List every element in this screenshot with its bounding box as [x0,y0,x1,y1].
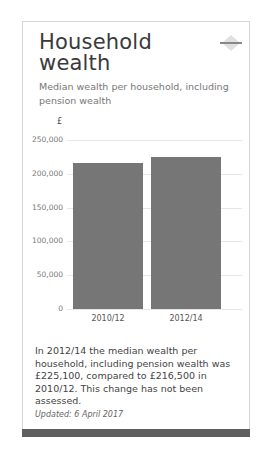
bar-2010-12[interactable] [73,163,143,309]
card-footer-bar [22,429,250,437]
gridline [67,140,242,141]
y-tick-label: 200,000 [23,169,63,178]
y-tick-label: 0 [23,304,63,313]
y-tick-label: 100,000 [23,236,63,245]
updated-date: Updated: 6 April 2017 [35,410,123,419]
y-axis-unit: £ [57,117,62,126]
y-tick-label: 50,000 [23,270,63,279]
y-tick-label: 150,000 [23,203,63,212]
household-wealth-card: Household wealth Median wealth per house… [22,21,250,430]
x-tick-label: 2010/12 [73,314,143,323]
bar-chart: £ 050,000100,000150,000200,000250,000201… [23,22,249,322]
gridline [67,309,242,310]
card-description: In 2012/14 the median wealth per househo… [35,345,243,408]
x-tick-label: 2012/14 [151,314,221,323]
bar-2012-14[interactable] [151,157,221,309]
y-tick-label: 250,000 [23,135,63,144]
